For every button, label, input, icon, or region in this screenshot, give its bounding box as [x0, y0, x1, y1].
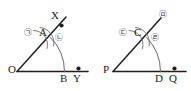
- label-right-vertex-P: P: [103, 64, 109, 75]
- label-left-mark-left: ㉠: [24, 29, 32, 37]
- right-angle-group: [113, 18, 186, 72]
- right-main-arc-D: [147, 38, 161, 72]
- label-left-baseline-end-Y: Y: [73, 73, 81, 84]
- left-main-arc-B: [51, 38, 65, 72]
- label-right-arc-foot-D: D: [155, 73, 163, 84]
- left-angle-group: [17, 17, 88, 72]
- label-left-mark-right: ㉡: [55, 34, 63, 42]
- left-point-dot-Y: [76, 66, 80, 70]
- label-left-ray-end-X: X: [51, 10, 59, 21]
- label-left-arc-foot-B: B: [60, 73, 67, 84]
- label-left-vertex-O: O: [8, 64, 16, 75]
- left-point-dot-X: [59, 23, 63, 27]
- label-right-baseline-end-Q: Q: [169, 73, 177, 84]
- label-left-ray-point-A: A: [39, 27, 47, 38]
- right-point-dot-Q: [172, 66, 176, 70]
- geometry-figure-canvas: O X Y B A ㉠ ㉡ P ㉤ Q D C ㉢ ㉣: [0, 0, 191, 91]
- label-right-ray-point-C: C: [134, 27, 141, 38]
- label-right-mark-right: ㉣: [151, 34, 159, 42]
- label-right-ray-end-mark: ㉤: [159, 11, 167, 19]
- label-right-mark-left: ㉢: [119, 29, 127, 37]
